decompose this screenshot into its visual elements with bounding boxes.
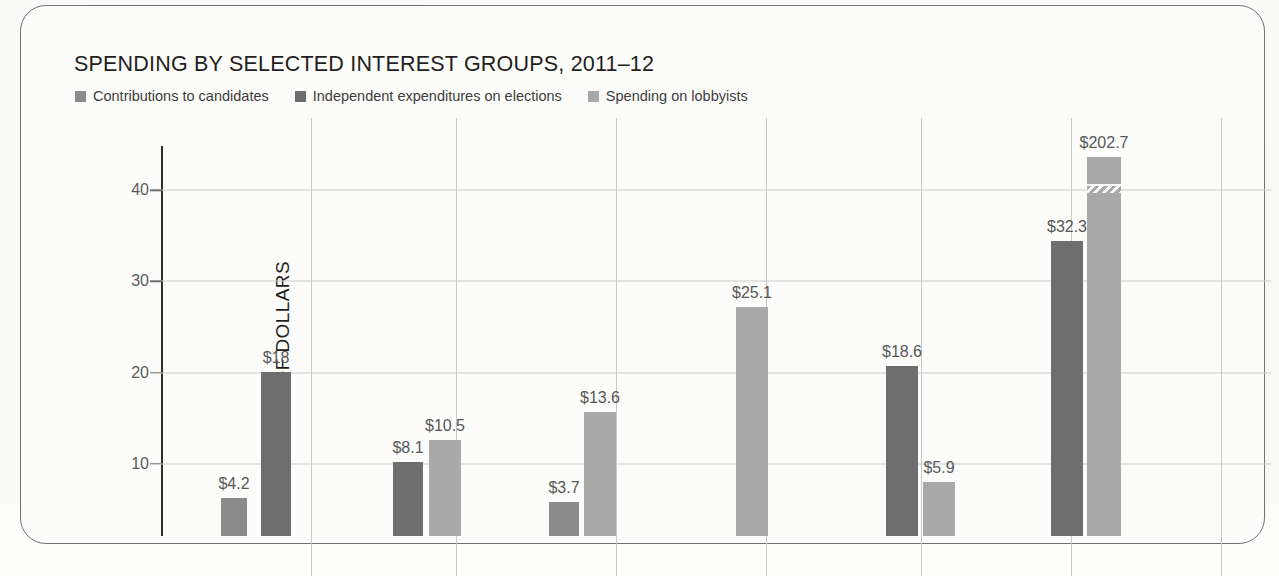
bar-value-label: $202.7 (1080, 134, 1129, 152)
y-tick-label: 20 (131, 364, 149, 382)
y-tick-mark (150, 189, 161, 190)
bar: $10.5 (429, 440, 461, 536)
bar: $8.1 (393, 462, 423, 536)
legend-item-independent: Independent expenditures on elections (295, 88, 562, 104)
gridline-vertical (616, 118, 617, 576)
bar: $32.3 (1051, 241, 1083, 536)
bar: $4.2 (221, 498, 247, 536)
plot-area: MILLIONS OF DOLLARS 10203040 $4.2$18$8.1… (161, 146, 1271, 536)
y-tick-mark (150, 372, 161, 373)
bar-value-label: $3.7 (548, 479, 579, 497)
bar-value-label: $18 (263, 349, 290, 367)
bar-value-label: $5.9 (923, 459, 954, 477)
y-tick-label: 40 (131, 181, 149, 199)
bar-value-label: $18.6 (882, 343, 922, 361)
y-tick-mark (150, 463, 161, 464)
bar-segment-lower (1087, 193, 1121, 536)
legend-item-contributions: Contributions to candidates (75, 88, 269, 104)
bar-value-label: $32.3 (1047, 218, 1087, 236)
legend-label: Spending on lobbyists (606, 88, 748, 104)
gridline-vertical (311, 118, 312, 576)
bar-value-label: $10.5 (425, 417, 465, 435)
chart-legend: Contributions to candidates Independent … (75, 88, 748, 104)
bar: $3.7 (549, 502, 579, 536)
bar: $18 (261, 372, 291, 536)
bar: $5.9 (923, 482, 955, 536)
bar-segment-upper (1087, 157, 1121, 184)
y-tick-label: 30 (131, 272, 149, 290)
legend-swatch-icon (588, 91, 599, 102)
bar-value-label: $13.6 (580, 389, 620, 407)
bar-value-label: $8.1 (392, 439, 423, 457)
axis-break-zigzag-icon (1087, 186, 1121, 193)
chart-card: SPENDING BY SELECTED INTEREST GROUPS, 20… (20, 5, 1265, 544)
chart-title: SPENDING BY SELECTED INTEREST GROUPS, 20… (74, 52, 654, 77)
y-tick-label: 10 (131, 455, 149, 473)
y-tick-mark (150, 281, 161, 282)
legend-swatch-icon (75, 91, 86, 102)
bar: $18.6 (886, 366, 918, 536)
bleed-through-text (661, 14, 666, 31)
legend-swatch-icon (295, 91, 306, 102)
legend-label: Contributions to candidates (93, 88, 269, 104)
bar: $13.6 (584, 412, 616, 536)
bar: $202.7 (1087, 157, 1121, 536)
bar: $25.1 (736, 307, 768, 536)
legend-label: Independent expenditures on elections (313, 88, 562, 104)
bar-value-label: $25.1 (732, 284, 772, 302)
gridline-vertical (1221, 118, 1222, 576)
bar-value-label: $4.2 (218, 475, 249, 493)
legend-item-lobbyists: Spending on lobbyists (588, 88, 748, 104)
